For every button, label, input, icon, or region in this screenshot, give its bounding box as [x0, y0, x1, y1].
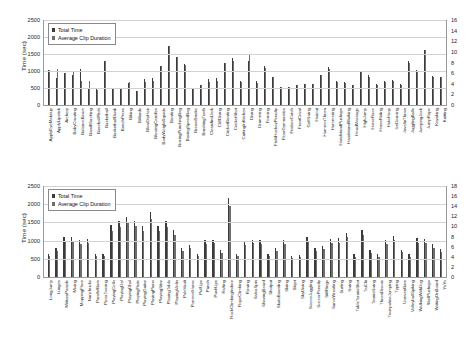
x-tick-label: BenchPress — [116, 107, 124, 167]
y-tick-right: 4 — [451, 81, 454, 87]
bar-average-clip-duration — [331, 243, 332, 277]
bar-group — [229, 20, 237, 105]
x-tick-label: FrontCrawl — [293, 107, 301, 167]
x-tick-label: PlayingViolin — [170, 279, 178, 339]
y-tick-left: 1500 — [28, 51, 40, 57]
x-tick-label: Billiards — [133, 107, 141, 167]
bar-group — [437, 20, 445, 105]
y-axis-ticks-left-bottom: 05001000150020002500 — [16, 186, 40, 277]
bar-average-clip-duration — [225, 63, 226, 105]
bar-average-clip-duration — [113, 88, 114, 105]
x-tick-label: LongJump — [44, 279, 52, 339]
x-tick-label: Surfing — [335, 279, 343, 339]
bar-average-clip-duration — [292, 258, 293, 277]
x-tick-label: PlayingDhol — [123, 279, 131, 339]
bar-group — [312, 186, 320, 277]
bar-average-clip-duration — [273, 77, 274, 105]
bar-average-clip-duration — [402, 252, 403, 277]
bar-average-clip-duration — [221, 253, 222, 277]
bar-group — [163, 186, 171, 277]
y-tick-left: 1000 — [28, 238, 40, 244]
x-tick-label: PushUps — [209, 279, 217, 339]
y-tick-right: 12 — [451, 38, 457, 44]
x-tick-label: ShavingBeard — [257, 279, 265, 339]
bar-average-clip-duration — [385, 82, 386, 105]
bar-average-clip-duration — [337, 82, 338, 105]
bar-group — [181, 20, 189, 105]
bar-group — [186, 186, 194, 277]
bar-group — [414, 186, 422, 277]
bar-group — [288, 186, 296, 277]
y-tick-left: 2000 — [28, 34, 40, 40]
bar-group — [257, 186, 265, 277]
bar-group — [117, 20, 125, 105]
bar-group — [429, 20, 437, 105]
x-tick-label: PullUps — [194, 279, 202, 339]
x-tick-label: BandMarching — [84, 107, 92, 167]
y-axis-ticks-right-bottom: 024681012141618 — [449, 186, 471, 277]
y-tick-right: 12 — [451, 213, 457, 219]
x-tick-label: SkateBoarding — [272, 279, 280, 339]
chart-panel-top: Time (sec) 05001000150020002500 02468101… — [0, 4, 475, 170]
bar-average-clip-duration — [329, 69, 330, 105]
bar-average-clip-duration — [410, 257, 411, 277]
bar-average-clip-duration — [409, 63, 410, 105]
bar-average-clip-duration — [261, 244, 262, 277]
bar-average-clip-duration — [209, 82, 210, 105]
bar-average-clip-duration — [80, 244, 81, 277]
y-tick-right: 14 — [451, 28, 457, 34]
y-tick-right: 2 — [451, 264, 454, 270]
gridline — [44, 88, 446, 89]
bar-group — [406, 186, 414, 277]
x-tick-label: JumpRope — [422, 107, 430, 167]
y-tick-left: 2500 — [28, 183, 40, 189]
bar-average-clip-duration — [441, 77, 442, 105]
bar-average-clip-duration — [151, 219, 152, 277]
x-tick-label: WallPushups — [422, 279, 430, 339]
bar-average-clip-duration — [386, 244, 387, 277]
bar-group — [405, 20, 413, 105]
y-tick-left: 500 — [31, 256, 40, 262]
bar-average-clip-duration — [206, 244, 207, 277]
y-tick-left: 0 — [37, 274, 40, 280]
bar-average-clip-duration — [217, 81, 218, 105]
x-tick-label: Nunchucks — [83, 279, 91, 339]
x-tick-label: MilitaryParade — [60, 279, 68, 339]
bar-group — [382, 186, 390, 277]
x-tick-label: SoccerJuggling — [304, 279, 312, 339]
x-tick-label: Typing — [391, 279, 399, 339]
bar-group — [304, 186, 312, 277]
legend-swatch-avg-clip-duration — [52, 202, 55, 205]
x-tick-label: HammerThrow — [318, 107, 326, 167]
x-tick-label: HandstandWalking — [342, 107, 350, 167]
bar-average-clip-duration — [57, 69, 58, 105]
bar-average-clip-duration — [265, 68, 266, 105]
bar-average-clip-duration — [284, 244, 285, 277]
gridline — [44, 71, 446, 72]
x-tick-label: ThrowDiscus — [375, 279, 383, 339]
bar-average-clip-duration — [89, 81, 90, 105]
legend-item-total-time: Total Time — [52, 192, 111, 200]
x-tick-label: TennisSwing — [367, 279, 375, 339]
x-tick-label: GolfSwing — [302, 107, 310, 167]
bar-group — [205, 20, 213, 105]
bar-average-clip-duration — [418, 243, 419, 277]
x-tick-label: PlayingTabla — [162, 279, 170, 339]
bar-average-clip-duration — [145, 82, 146, 105]
x-tick-label: FieldHockeyPenalty — [269, 107, 277, 167]
bar-group — [335, 186, 343, 277]
bar-group — [233, 186, 241, 277]
bar-group — [221, 20, 229, 105]
x-tick-label: SumoWrestling — [328, 279, 336, 339]
x-tick-label: PlayingGuitar — [139, 279, 147, 339]
bar-average-clip-duration — [316, 251, 317, 277]
legend-item-avg-clip-duration: Average Clip Duration — [52, 200, 111, 208]
bar-average-clip-duration — [425, 243, 426, 277]
x-tick-label: Hammering — [326, 107, 334, 167]
x-tick-label: WritingOnBoard — [430, 279, 438, 339]
bar-group — [349, 20, 357, 105]
x-tick-label: HulaHoop — [382, 107, 390, 167]
x-tick-label-text: Knitting — [442, 108, 447, 122]
x-tick-label: BasketballDunk — [108, 107, 116, 167]
y-tick-right: 8 — [451, 234, 454, 240]
